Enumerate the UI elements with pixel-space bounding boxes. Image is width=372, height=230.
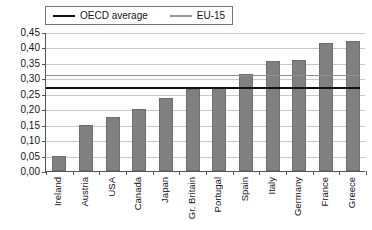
y-axis-tick-label: 0,15 (21, 121, 40, 131)
legend-item-eu-15: EU-15 (170, 11, 225, 21)
legend-label-oecd-average: OECD average (80, 11, 148, 21)
legend-item-oecd-average: OECD average (53, 11, 148, 21)
y-axis-tick-label: 0,20 (21, 105, 40, 115)
bar (346, 41, 360, 171)
y-axis-tick-label: 0,00 (21, 167, 40, 177)
reference-line-eu-15 (46, 75, 360, 76)
x-axis-tick-label: Greece (347, 177, 357, 208)
x-axis-tick-label: France (320, 177, 330, 207)
bar (266, 61, 280, 171)
bar (106, 117, 120, 171)
x-axis-tick-label: Italy (267, 177, 277, 194)
x-axis-tick-label: USA (107, 177, 117, 197)
x-axis-tick-label: Germany (293, 177, 303, 216)
chart-legend: OECD average EU-15 (45, 6, 233, 25)
x-axis-tick-label: Spain (240, 177, 250, 201)
bar (212, 88, 226, 171)
x-axis-tick-label: Austria (80, 177, 90, 207)
y-axis-tick-label: 0,40 (21, 43, 40, 53)
bar (132, 109, 146, 171)
bar-chart: OECD average EU-15 0,000,050,100,150,200… (0, 0, 372, 230)
legend-label-eu-15: EU-15 (197, 11, 225, 21)
reference-line-oecd-average (46, 87, 360, 89)
x-axis-tick-label: Japan (160, 177, 170, 203)
x-axis-labels: IrelandAustriaUSACanadaJapanGr. BritainP… (45, 173, 365, 230)
bar-series (46, 33, 365, 171)
x-axis-tick-mark (366, 171, 367, 175)
y-axis-tick-label: 0,25 (21, 90, 40, 100)
x-axis-tick-label: Portugal (213, 177, 223, 212)
y-axis-tick-label: 0,30 (21, 74, 40, 84)
x-axis-tick-label: Gr. Britain (187, 177, 197, 219)
legend-line-swatch-icon (170, 15, 192, 17)
plot-area: 0,000,050,100,150,200,250,300,350,400,45 (45, 33, 365, 172)
y-axis-tick-label: 0,10 (21, 136, 40, 146)
y-axis-tick-label: 0,35 (21, 59, 40, 69)
legend-line-swatch-icon (53, 15, 75, 17)
y-axis-tick-label: 0,05 (21, 152, 40, 162)
bar (292, 60, 306, 171)
bar (52, 156, 66, 171)
x-axis-tick-label: Canada (133, 177, 143, 210)
bar (159, 98, 173, 171)
bar (319, 43, 333, 171)
bar (186, 89, 200, 171)
x-axis-tick-label: Ireland (53, 177, 63, 206)
y-axis-tick-label: 0,45 (21, 28, 40, 38)
bar (79, 125, 93, 171)
